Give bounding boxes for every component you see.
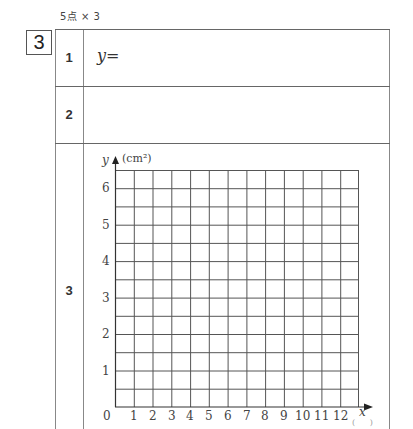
question-number-box: 3 <box>26 30 52 55</box>
x-tick-10: 10 <box>295 409 310 423</box>
table-left-border <box>55 29 56 429</box>
table-right-border <box>389 29 390 429</box>
x-tick-2: 2 <box>149 409 157 423</box>
answer-field-2[interactable] <box>84 87 389 143</box>
y-tick-6: 6 <box>102 181 110 195</box>
x-axis-label: x <box>359 405 366 419</box>
x-tick-3: 3 <box>168 409 176 423</box>
x-tick-11: 11 <box>314 409 329 423</box>
y-tick-1: 1 <box>102 364 110 378</box>
table-top-border <box>55 29 390 30</box>
graph-grid[interactable] <box>115 170 359 407</box>
x-tick-9: 9 <box>280 409 288 423</box>
score-label: 5点 × 3 <box>60 8 100 23</box>
x-tick-5: 5 <box>205 409 213 423</box>
y-tick-2: 2 <box>102 327 110 341</box>
origin-label: 0 <box>103 409 111 423</box>
y-tick-4: 4 <box>102 254 110 268</box>
y-axis-label: y <box>102 153 109 167</box>
row-number-3: 3 <box>55 283 83 298</box>
x-unit-label: ( ) <box>352 418 379 427</box>
x-tick-1: 1 <box>130 409 138 423</box>
x-tick-4: 4 <box>186 409 194 423</box>
y-unit-label: (cm²) <box>122 152 152 165</box>
x-tick-6: 6 <box>224 409 232 423</box>
x-tick-12: 12 <box>333 409 348 423</box>
row-divider-2 <box>55 143 390 144</box>
x-tick-7: 7 <box>243 409 251 423</box>
x-tick-8: 8 <box>261 409 269 423</box>
answer-field-1[interactable]: y= <box>97 46 119 65</box>
row-number-1: 1 <box>55 50 83 65</box>
y-tick-5: 5 <box>102 218 110 232</box>
row-number-2: 2 <box>55 107 83 122</box>
y-tick-3: 3 <box>102 291 110 305</box>
